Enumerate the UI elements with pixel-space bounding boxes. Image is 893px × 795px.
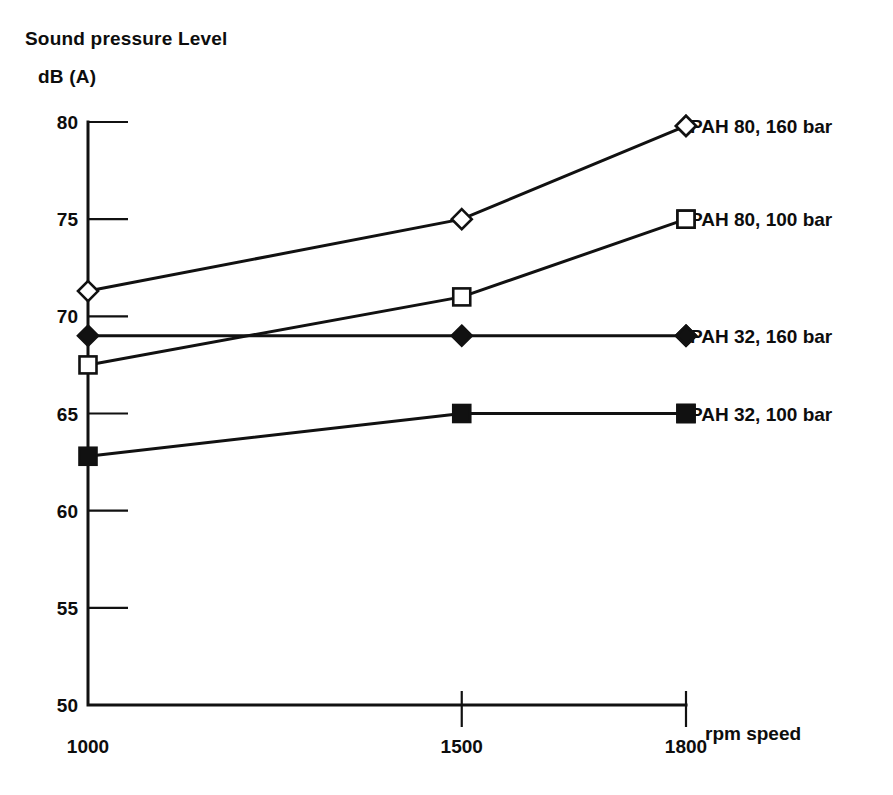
y-tick-label: 65	[57, 404, 79, 425]
y-tick-label: 55	[57, 598, 79, 619]
legend-item: PAH 80, 100 bar	[678, 209, 833, 230]
legend-label: PAH 80, 160 bar	[690, 116, 833, 137]
x-axis-tick-marks	[462, 691, 686, 727]
marker-open-diamond-point	[78, 281, 98, 301]
marker-filled-diamond-point	[78, 326, 98, 346]
marker-open-square-legend	[678, 211, 695, 228]
series-line	[88, 126, 686, 291]
x-tick-label: 1800	[665, 736, 707, 757]
marker-open-square-point	[453, 288, 470, 305]
marker-filled-square-legend	[678, 405, 695, 422]
data-series	[80, 405, 695, 465]
chart-page: Sound pressure Level dB (A) 807570656055…	[0, 0, 893, 795]
data-series	[78, 116, 696, 301]
series-line	[88, 414, 686, 457]
x-tick-label: 1500	[441, 736, 483, 757]
legend-item: PAH 32, 160 bar	[676, 326, 833, 347]
x-axis-title: rpm speed	[705, 723, 801, 744]
series-line	[88, 219, 686, 365]
y-tick-label: 60	[57, 501, 78, 522]
marker-filled-square-point	[453, 405, 470, 422]
marker-filled-diamond-point	[452, 326, 472, 346]
y-tick-label: 75	[57, 209, 79, 230]
data-series-group	[78, 116, 696, 465]
legend-label: PAH 32, 160 bar	[690, 326, 833, 347]
data-series	[80, 211, 695, 374]
x-axis-tick-labels: 100015001800	[67, 736, 707, 757]
legend-item: PAH 32, 100 bar	[678, 404, 833, 425]
line-chart: 80757065605550 100015001800 rpm speed PA…	[0, 0, 893, 795]
legend-label: PAH 32, 100 bar	[690, 404, 833, 425]
legend-label: PAH 80, 100 bar	[690, 209, 833, 230]
y-tick-label: 70	[57, 306, 78, 327]
y-tick-label: 50	[57, 695, 78, 716]
chart-legend: PAH 80, 160 barPAH 80, 100 barPAH 32, 16…	[676, 116, 833, 425]
marker-open-square-point	[80, 356, 97, 373]
x-tick-label: 1000	[67, 736, 109, 757]
data-series	[78, 326, 696, 346]
marker-open-diamond-point	[452, 209, 472, 229]
legend-item: PAH 80, 160 bar	[676, 116, 833, 137]
y-tick-label: 80	[57, 112, 78, 133]
marker-filled-square-point	[80, 448, 97, 465]
y-axis-tick-marks	[88, 122, 128, 705]
y-axis-tick-labels: 80757065605550	[57, 112, 79, 716]
